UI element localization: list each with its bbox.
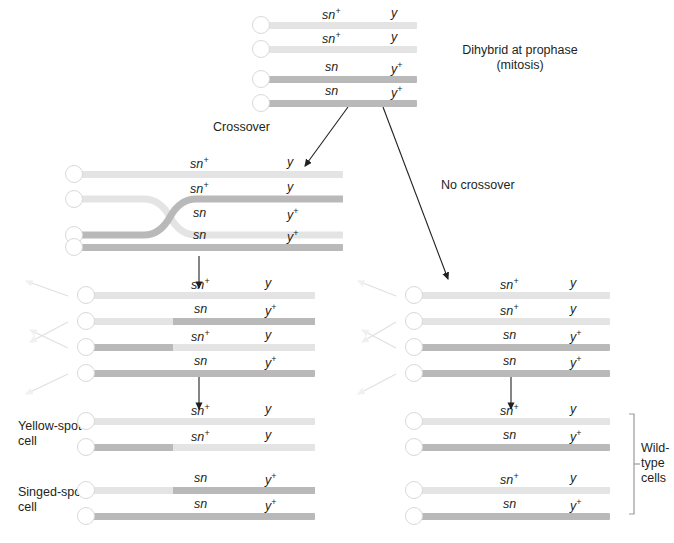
allele-label-sn: sn (193, 228, 206, 242)
chromatid-bar (90, 370, 315, 377)
chromatid-segment-distal (173, 318, 315, 325)
centromere (77, 481, 95, 499)
centromere (405, 312, 423, 330)
chromatid (90, 513, 315, 520)
allele-label-y: y (570, 402, 576, 416)
chromatid-segment-proximal (90, 318, 173, 325)
centromere (77, 438, 95, 456)
allele-label-y: y+ (570, 328, 582, 344)
allele-label-y: y+ (287, 206, 299, 222)
allele-label-sn: sn (194, 471, 207, 485)
chromatid (90, 444, 315, 451)
centromere (77, 312, 95, 330)
allele-label-sn: sn (193, 206, 206, 220)
chromatid-bar (418, 344, 610, 351)
chromatid (418, 487, 610, 494)
crossover-x-shape (78, 199, 343, 235)
chromatid (418, 370, 610, 377)
caption-crossover: Crossover (213, 120, 270, 135)
chromatid (78, 171, 343, 178)
allele-label-sn: sn (194, 354, 207, 368)
allele-label-y: y (570, 276, 576, 290)
allele-label-y: y+ (265, 497, 277, 513)
allele-label-y: y+ (570, 354, 582, 370)
centromere (252, 40, 270, 58)
caption-no-crossover: No crossover (441, 178, 515, 193)
chromatid-bar (418, 318, 610, 325)
chromatid-bar (265, 22, 417, 29)
chromatid-bar (418, 418, 610, 425)
chromatid-bar (78, 244, 343, 251)
chromatid (90, 292, 315, 299)
allele-label-y: y+ (265, 302, 277, 318)
allele-label-y: y (287, 155, 293, 169)
allele-label-sn: sn+ (500, 276, 519, 292)
allele-label-sn: sn+ (500, 471, 519, 487)
allele-label-sn: sn (194, 302, 207, 316)
chromatid-segment-distal (173, 344, 315, 351)
centromere (65, 238, 83, 256)
chromatid-segment-distal (173, 487, 315, 494)
allele-label-sn: sn (325, 60, 338, 74)
chromatid-bar (418, 370, 610, 377)
allele-label-y: y+ (391, 60, 403, 76)
allele-label-sn: sn (194, 497, 207, 511)
allele-label-y: y+ (287, 228, 299, 244)
branch-arrow-crossover (305, 107, 348, 166)
centromere (77, 364, 95, 382)
spindle-arrows-left (26, 281, 68, 394)
centromere (252, 16, 270, 34)
allele-label-y: y (265, 276, 271, 290)
chromatid (265, 22, 417, 29)
chromatid (90, 318, 315, 325)
allele-label-sn: sn+ (500, 302, 519, 318)
chromatid (265, 76, 417, 83)
centromere (405, 507, 423, 525)
chromatid (418, 292, 610, 299)
allele-label-y: y (265, 428, 271, 442)
caption-dihybrid: Dihybrid at prophase (mitosis) (440, 43, 600, 73)
chromatid-bar (418, 444, 610, 451)
allele-label-y: y (391, 30, 397, 44)
chromatid-bar (265, 46, 417, 53)
chromatid-segment-distal (173, 444, 315, 451)
centromere (65, 165, 83, 183)
allele-label-y: y+ (570, 497, 582, 513)
chromatid (78, 244, 343, 251)
allele-label-sn: sn+ (500, 402, 519, 418)
centromere (405, 438, 423, 456)
chromatid-bar (418, 487, 610, 494)
chromatid-bar (78, 171, 343, 178)
allele-label-y: y+ (265, 354, 277, 370)
centromere (405, 286, 423, 304)
allele-label-y: y (265, 402, 271, 416)
allele-label-sn: sn+ (190, 180, 209, 196)
allele-label-y: y (570, 471, 576, 485)
allele-label-sn: sn+ (190, 155, 209, 171)
allele-label-y: y+ (391, 84, 403, 100)
chromatid-bar (418, 513, 610, 520)
centromere (405, 338, 423, 356)
chromatid (90, 370, 315, 377)
chromatid (418, 513, 610, 520)
spindle-arrows-right (358, 281, 396, 394)
allele-label-y: y (570, 302, 576, 316)
centromere (65, 190, 83, 208)
chromatid (418, 344, 610, 351)
allele-label-y: y (265, 328, 271, 342)
chromatid-bar (418, 292, 610, 299)
centromere (77, 412, 95, 430)
chromatid-segment-proximal (90, 344, 173, 351)
branch-arrow-no-crossover (383, 107, 448, 279)
centromere (77, 286, 95, 304)
centromere (77, 507, 95, 525)
chromatid-bar (90, 513, 315, 520)
chromatid (418, 444, 610, 451)
chromatid-segment-proximal (90, 444, 173, 451)
chromatid-bar (265, 76, 417, 83)
chromatid (90, 344, 315, 351)
chromatid (418, 418, 610, 425)
allele-label-sn: sn+ (191, 402, 210, 418)
allele-label-sn: sn (503, 328, 516, 342)
allele-label-y: y (391, 6, 397, 20)
